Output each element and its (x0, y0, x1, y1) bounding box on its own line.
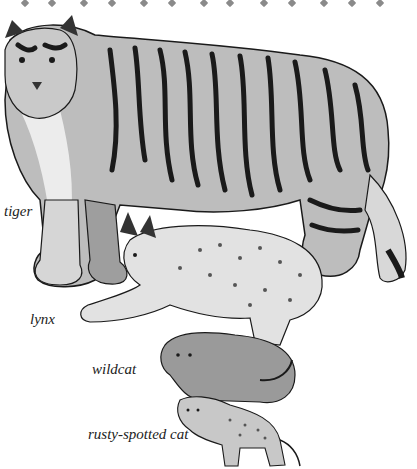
cats-illustration (0, 0, 417, 469)
label-wildcat: wildcat (92, 361, 136, 378)
label-lynx: lynx (30, 311, 55, 328)
label-rusty-spotted-cat: rusty-spotted cat (88, 426, 188, 443)
label-tiger: tiger (4, 203, 32, 220)
rusty-spotted-cat-figure (178, 397, 300, 466)
